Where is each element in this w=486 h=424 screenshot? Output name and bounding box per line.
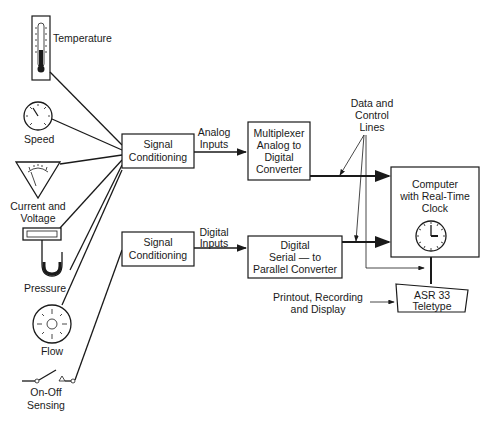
manometer-icon (23, 228, 62, 276)
label-speed: Speed (24, 133, 55, 145)
label-current: Current and (10, 200, 66, 212)
digital-sensor-line (75, 250, 122, 380)
signal-cond-digital-label-2: Conditioning (129, 249, 188, 261)
flow-meter-icon (33, 305, 71, 343)
signal-cond-analog-label-2: Conditioning (129, 151, 188, 163)
teletype-label-2: Teletype (412, 300, 451, 312)
s2p-label-2: Serial — to (269, 251, 321, 263)
label-voltage: Voltage (20, 212, 55, 224)
meter-icon (16, 162, 60, 198)
label-onoff: On-Off (30, 386, 61, 398)
data-control-label-2: Control (355, 109, 389, 121)
data-control-label-1: Data and (351, 97, 394, 109)
analog-inputs-label-1: Analog (198, 126, 231, 138)
signal-cond-digital-label-1: Signal (143, 236, 172, 248)
mux-label-1: Multiplexer (254, 127, 305, 139)
label-temperature: Temperature (53, 32, 112, 44)
digital-inputs-label-2: Inputs (200, 237, 229, 249)
computer-label-3: Clock (422, 202, 449, 214)
computer-label-2: with Real-Time (399, 190, 470, 202)
speedometer-icon (24, 102, 52, 130)
data-control-label-3: Lines (359, 121, 384, 133)
s2p-label-3: Parallel Converter (253, 263, 338, 275)
mux-label-2: Analog to (257, 139, 302, 151)
computer-label-1: Computer (412, 178, 459, 190)
printout-label-1: Printout, Recording (273, 291, 363, 303)
signal-cond-analog-label-1: Signal (143, 138, 172, 150)
analog-inputs-label-2: Inputs (200, 138, 229, 150)
label-flow: Flow (41, 345, 64, 357)
switch-icon (22, 370, 75, 383)
mux-label-4: Converter (256, 163, 303, 175)
s2p-label-1: Digital (280, 239, 309, 251)
label-sensing: Sensing (27, 399, 65, 411)
mux-label-3: Digital (264, 151, 293, 163)
thermometer-icon (32, 16, 50, 80)
data-acquisition-diagram: Temperature Speed Current and Voltage Pr… (0, 0, 486, 424)
printout-label-2: and Display (291, 303, 347, 315)
label-pressure: Pressure (24, 282, 66, 294)
